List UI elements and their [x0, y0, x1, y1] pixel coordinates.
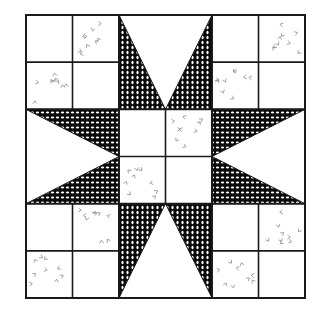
square-fill [212, 15, 259, 62]
square-fill [26, 62, 73, 109]
square-fill [119, 157, 166, 204]
square-print [166, 109, 213, 156]
square-plain [259, 251, 306, 298]
square-fill [212, 204, 259, 251]
square-fill [166, 157, 213, 204]
square-print [26, 251, 73, 298]
square-fill [259, 62, 306, 109]
square-print [212, 62, 259, 109]
square-fill [73, 62, 120, 109]
square-fill [119, 109, 166, 156]
quilt-block [0, 0, 319, 314]
square-plain [73, 251, 120, 298]
square-plain [26, 15, 73, 62]
square-plain [26, 204, 73, 251]
square-fill [259, 15, 306, 62]
square-print [26, 62, 73, 109]
square-print [259, 204, 306, 251]
square-plain [73, 62, 120, 109]
square-print [119, 157, 166, 204]
square-fill [73, 251, 120, 298]
square-plain [259, 62, 306, 109]
square-fill [259, 251, 306, 298]
square-plain [166, 157, 213, 204]
square-print [73, 15, 120, 62]
square-fill [26, 204, 73, 251]
square-fill [166, 109, 213, 156]
square-fill [26, 15, 73, 62]
square-fill [73, 15, 120, 62]
square-print [73, 204, 120, 251]
square-plain [212, 204, 259, 251]
square-plain [119, 109, 166, 156]
square-print [212, 251, 259, 298]
square-print [259, 15, 306, 62]
square-plain [212, 15, 259, 62]
square-fill [26, 251, 73, 298]
